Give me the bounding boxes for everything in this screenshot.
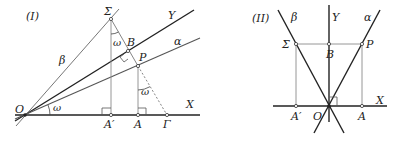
label-aprime: A′: [103, 118, 115, 131]
figure-1-title: (I): [26, 10, 39, 23]
label-omega-p: ω: [141, 86, 149, 97]
label-b: B: [126, 36, 135, 49]
point-p: [360, 42, 363, 45]
label-a: A: [133, 118, 142, 131]
beta-line: [16, 9, 119, 126]
label-alpha: α: [364, 11, 372, 24]
alpha-line: [15, 38, 200, 119]
figure-2: (II) Σ B P A′ O A X Y α β: [252, 5, 387, 133]
point-p: [136, 64, 139, 67]
point-gamma: [165, 113, 168, 116]
label-x: X: [185, 98, 195, 111]
figure-2-title: (II): [252, 12, 269, 25]
label-y: Y: [332, 11, 341, 24]
label-gamma: Γ: [162, 118, 171, 131]
alpha-line: [314, 10, 380, 133]
label-sigma: Σ: [103, 5, 112, 18]
y-line: [15, 10, 194, 121]
figure-1: (I) O Σ B P: [15, 5, 200, 131]
point-b: [327, 42, 330, 45]
point-a: [136, 113, 139, 116]
label-o: O: [15, 103, 24, 116]
label-b: B: [325, 48, 334, 61]
label-aprime: A′: [290, 110, 302, 123]
label-sigma: Σ: [281, 38, 290, 51]
label-p: P: [365, 38, 374, 51]
label-y: Y: [168, 9, 177, 22]
point-aprime: [109, 113, 112, 116]
point-aprime: [294, 104, 297, 107]
point-b: [126, 49, 129, 52]
label-x: X: [375, 94, 385, 107]
beta-line: [278, 10, 344, 133]
diagram-canvas: (I) O Σ B P: [0, 0, 399, 142]
label-alpha: α: [174, 35, 182, 48]
label-beta: β: [290, 11, 297, 24]
label-beta: β: [58, 54, 65, 67]
label-p: P: [138, 51, 147, 64]
point-sigma: [294, 42, 297, 45]
label-o: O: [313, 110, 322, 123]
angle-arc-o: [48, 105, 50, 115]
label-omega-o: ω: [53, 102, 61, 113]
label-omega-sigma: ω: [113, 37, 121, 48]
point-o: [327, 104, 331, 108]
point-a: [360, 104, 363, 107]
label-a: A: [357, 110, 366, 123]
angle-arc-sigma: [111, 32, 119, 34]
